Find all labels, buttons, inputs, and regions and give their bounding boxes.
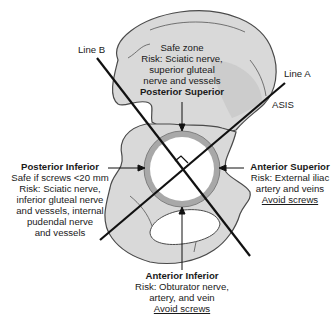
line-b-label: Line B xyxy=(78,44,105,55)
ps-line-2: superior gluteal xyxy=(126,64,238,75)
ps-line-1: Risk: Sciatic nerve, xyxy=(126,53,238,64)
pi-line-1: Risk: Sciatic nerve, xyxy=(4,183,116,194)
ai-line-1: artery, and vein xyxy=(127,292,237,303)
pi-line-5: and vessels xyxy=(4,227,116,238)
ai-line-0: Risk: Obturator nerve, xyxy=(127,281,237,292)
as-title: Anterior Superior xyxy=(244,161,336,172)
as-warning: Avoid screws xyxy=(244,194,336,205)
pi-title: Posterior Inferior xyxy=(4,161,116,172)
posterior-inferior-label: Posterior Inferior Safe if screws <20 mm… xyxy=(4,161,116,238)
as-line-1: artery and veins xyxy=(244,183,336,194)
ai-warning: Avoid screws xyxy=(127,303,237,314)
pi-line-4: pudendal nerve xyxy=(4,216,116,227)
ps-line-0: Safe zone xyxy=(126,42,238,53)
asis-label: ASIS xyxy=(272,99,294,110)
line-a-label: Line A xyxy=(284,68,311,79)
posterior-superior-label: Safe zone Risk: Sciatic nerve, superior … xyxy=(126,42,238,97)
pi-line-3: and vessels, internal xyxy=(4,205,116,216)
pi-line-0: Safe if screws <20 mm xyxy=(4,172,116,183)
as-line-0: Risk: External iliac xyxy=(244,172,336,183)
ps-line-3: nerve and vessels xyxy=(126,75,238,86)
anterior-superior-label: Anterior Superior Risk: External iliac a… xyxy=(244,161,336,205)
anterior-inferior-label: Anterior Inferior Risk: Obturator nerve,… xyxy=(127,270,237,314)
ps-title: Posterior Superior xyxy=(126,86,238,97)
ai-title: Anterior Inferior xyxy=(127,270,237,281)
pi-line-2: inferior gluteal nerve xyxy=(4,194,116,205)
